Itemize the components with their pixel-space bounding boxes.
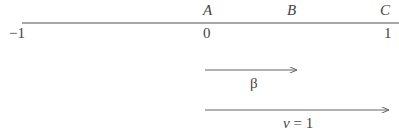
equals-sign: = bbox=[293, 115, 301, 131]
v-equals-1-label: v = 1 bbox=[283, 116, 313, 131]
tick-label-1: 1 bbox=[384, 26, 392, 41]
point-label-a: A bbox=[203, 3, 212, 18]
tick-label-0: 0 bbox=[203, 26, 211, 41]
beta-label: β bbox=[250, 76, 258, 91]
tick-label-minus-1: −1 bbox=[9, 26, 25, 41]
point-label-c: C bbox=[380, 3, 390, 18]
point-label-b: B bbox=[287, 3, 296, 18]
one-value: 1 bbox=[306, 115, 314, 131]
v-symbol: v bbox=[283, 115, 290, 131]
diagram-canvas bbox=[0, 0, 399, 136]
